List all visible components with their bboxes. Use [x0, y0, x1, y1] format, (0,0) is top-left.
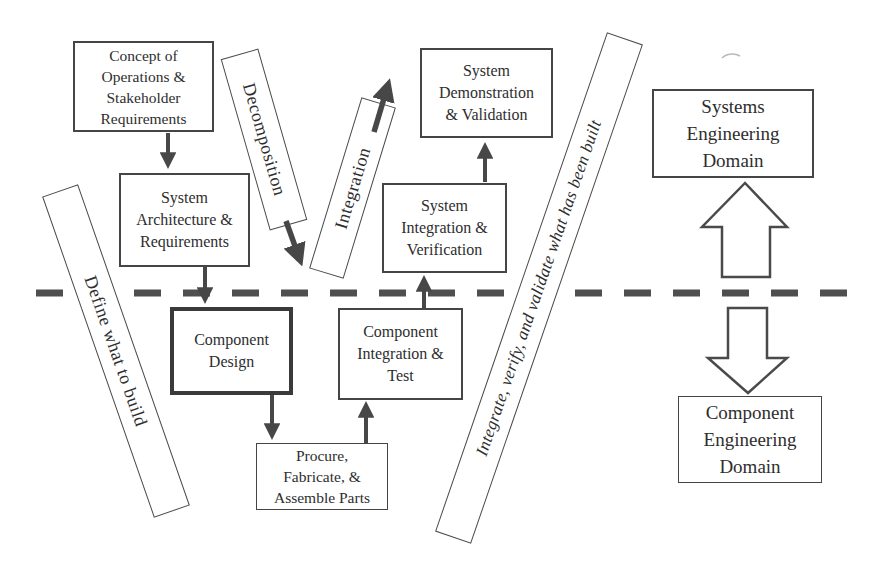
scan-artifact-mark: [722, 54, 740, 58]
hollow-up-arrow-to-systems-domain: [702, 183, 787, 277]
ribbon-define-label: Define what to build: [80, 273, 152, 430]
box-system-integration: System Integration & Verification: [382, 183, 507, 273]
box-procure-fabricate-assemble: Procure, Fabricate, & Assemble Parts: [256, 443, 388, 510]
box-component-design: Component Design: [170, 307, 293, 395]
arrow-decomposition: [286, 221, 300, 260]
box-component-integration: Component Integration & Test: [338, 308, 463, 400]
box-component-engineering-domain: Component Engineering Domain: [678, 396, 822, 483]
box-systems-engineering-domain: Systems Engineering Domain: [652, 89, 814, 178]
v-model-diagram: Decomposition Integration Define what to…: [0, 0, 878, 576]
ribbon-integrate-label: Integrate, verify, and validate what has…: [472, 117, 606, 458]
hollow-down-arrow-to-component-domain: [708, 308, 787, 393]
box-system-demonstration: System Demonstration & Validation: [420, 48, 553, 138]
box-system-architecture: System Architecture & Requirements: [119, 173, 250, 267]
ribbon-integration-label: Integration: [330, 145, 375, 232]
box-concept-of-operations: Concept of Operations & Stakeholder Requ…: [73, 41, 214, 132]
